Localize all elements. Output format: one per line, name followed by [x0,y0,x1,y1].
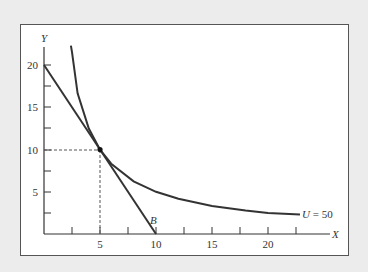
x-tick-label-5: 5 [97,238,103,250]
x-ticks [72,227,296,234]
chart-canvas: 5 10 15 20 5 10 15 20 Y X B U = 50 [0,0,368,272]
tangency-point [97,147,102,152]
budget-label: B [150,214,157,226]
indifference-curve [71,46,300,215]
x-axis-label: X [331,228,340,240]
x-tick-label-10: 10 [151,238,163,250]
y-axis-label: Y [41,32,49,44]
y-ticks [44,65,51,213]
y-tick-label-10: 10 [27,144,39,156]
utility-label: U = 50 [302,208,333,220]
y-tick-label-5: 5 [33,186,39,198]
x-tick-label-15: 15 [207,238,219,250]
x-tick-label-20: 20 [263,238,275,250]
y-tick-label-15: 15 [27,101,39,113]
y-tick-label-20: 20 [27,59,39,71]
